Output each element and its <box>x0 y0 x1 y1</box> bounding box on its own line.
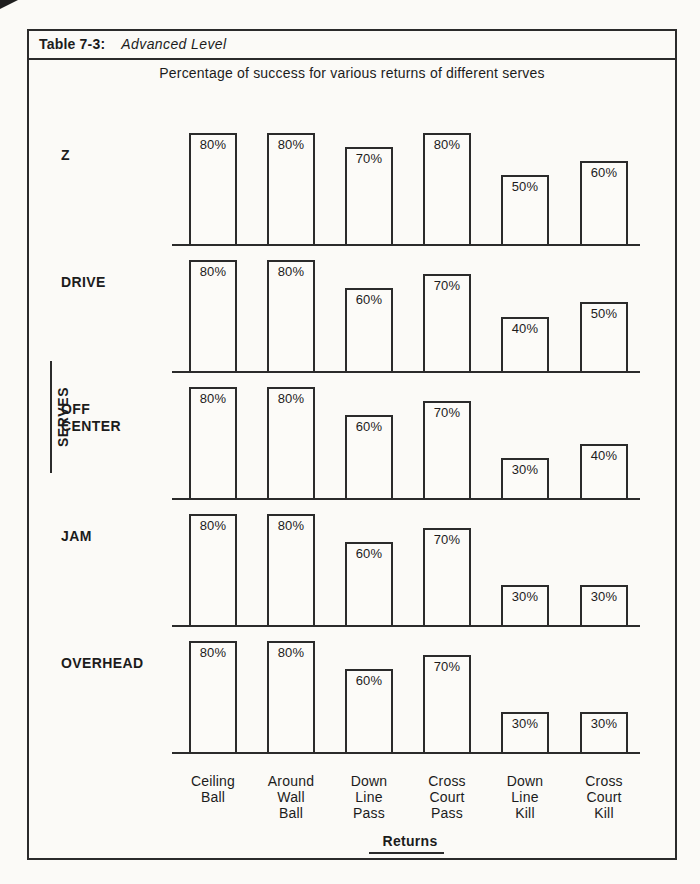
bar-off-center-cross-court-kill: 40% <box>580 444 628 500</box>
bar-overhead-cross-court-kill: 30% <box>580 712 628 754</box>
bar-value-label: 50% <box>503 177 547 194</box>
row-baseline-overhead <box>172 752 640 754</box>
bar-value-label: 60% <box>347 290 391 307</box>
bar-drive-cross-court-kill: 50% <box>580 302 628 373</box>
bar-value-label: 70% <box>425 530 469 547</box>
serve-label-jam: JAM <box>61 528 92 545</box>
bar-value-label: 30% <box>503 460 547 477</box>
bar-value-label: 60% <box>582 163 626 180</box>
bar-value-label: 60% <box>347 417 391 434</box>
bar-z-around-wall-ball: 80% <box>267 133 315 246</box>
bar-overhead-down-line-pass: 60% <box>345 669 393 754</box>
bar-z-ceiling-ball: 80% <box>189 133 237 246</box>
serve-label-z: Z <box>61 147 70 164</box>
bar-value-label: 40% <box>582 446 626 463</box>
x-axis-labels: CeilingBallAroundWallBallDownLinePassCro… <box>29 773 675 825</box>
bar-z-down-line-kill: 50% <box>501 175 549 246</box>
table-frame: Table 7-3:Advanced Level Percentage of s… <box>27 29 677 860</box>
bar-drive-ceiling-ball: 80% <box>189 260 237 373</box>
bar-value-label: 30% <box>503 714 547 731</box>
bar-value-label: 80% <box>191 516 235 533</box>
serve-label-off-center: OFFCENTER <box>61 401 121 435</box>
serve-row-jam: JAM80%80%60%70%30%30% <box>29 500 675 627</box>
serve-row-drive: DRIVE80%80%60%70%40%50% <box>29 246 675 373</box>
bar-value-label: 70% <box>347 149 391 166</box>
bar-value-label: 80% <box>269 643 313 660</box>
category-label-down-line-pass: DownLinePass <box>329 773 409 821</box>
bar-value-label: 80% <box>191 135 235 152</box>
bar-off-center-down-line-kill: 30% <box>501 458 549 500</box>
category-label-around-wall-ball: AroundWallBall <box>251 773 331 821</box>
bar-jam-down-line-pass: 60% <box>345 542 393 627</box>
bar-value-label: 40% <box>503 319 547 336</box>
bar-drive-cross-court-pass: 70% <box>423 274 471 373</box>
bar-jam-ceiling-ball: 80% <box>189 514 237 627</box>
bar-overhead-ceiling-ball: 80% <box>189 641 237 754</box>
category-label-cross-court-pass: CrossCourtPass <box>407 773 487 821</box>
bar-drive-down-line-pass: 60% <box>345 288 393 373</box>
category-label-ceiling-ball: CeilingBall <box>173 773 253 805</box>
bar-value-label: 80% <box>191 262 235 279</box>
bar-value-label: 70% <box>425 276 469 293</box>
serve-label-overhead: OVERHEAD <box>61 655 144 672</box>
serve-label-drive: DRIVE <box>61 274 106 291</box>
bar-z-cross-court-pass: 80% <box>423 133 471 246</box>
bar-value-label: 80% <box>191 643 235 660</box>
bar-off-center-around-wall-ball: 80% <box>267 387 315 500</box>
bar-overhead-down-line-kill: 30% <box>501 712 549 754</box>
bar-value-label: 80% <box>269 135 313 152</box>
bar-value-label: 70% <box>425 403 469 420</box>
bar-value-label: 80% <box>269 516 313 533</box>
serve-row-z: Z80%80%70%80%50%60% <box>29 119 675 246</box>
bar-drive-around-wall-ball: 80% <box>267 260 315 373</box>
bar-value-label: 60% <box>347 671 391 688</box>
bar-value-label: 80% <box>269 389 313 406</box>
bar-value-label: 80% <box>191 389 235 406</box>
x-axis-title: Returns <box>369 833 444 854</box>
bar-value-label: 30% <box>582 714 626 731</box>
bar-value-label: 80% <box>269 262 313 279</box>
bar-jam-cross-court-kill: 30% <box>580 585 628 627</box>
bar-z-cross-court-kill: 60% <box>580 161 628 246</box>
bar-off-center-down-line-pass: 60% <box>345 415 393 500</box>
bar-value-label: 60% <box>347 544 391 561</box>
category-label-down-line-kill: DownLineKill <box>485 773 565 821</box>
bar-value-label: 70% <box>425 657 469 674</box>
bar-z-down-line-pass: 70% <box>345 147 393 246</box>
bar-jam-cross-court-pass: 70% <box>423 528 471 627</box>
serve-row-off-center: OFFCENTER80%80%60%70%30%40% <box>29 373 675 500</box>
bar-overhead-cross-court-pass: 70% <box>423 655 471 754</box>
bar-jam-around-wall-ball: 80% <box>267 514 315 627</box>
bar-jam-down-line-kill: 30% <box>501 585 549 627</box>
bar-value-label: 30% <box>582 587 626 604</box>
bar-value-label: 80% <box>425 135 469 152</box>
x-axis-title-wrap: Returns <box>172 832 640 854</box>
scan-corner-artifact <box>0 0 18 9</box>
bar-overhead-around-wall-ball: 80% <box>267 641 315 754</box>
bar-off-center-cross-court-pass: 70% <box>423 401 471 500</box>
bar-off-center-ceiling-ball: 80% <box>189 387 237 500</box>
bar-drive-down-line-kill: 40% <box>501 317 549 373</box>
bar-value-label: 50% <box>582 304 626 321</box>
chart-rows: Z80%80%70%80%50%60%DRIVE80%80%60%70%40%5… <box>29 31 675 858</box>
category-label-cross-court-kill: CrossCourtKill <box>564 773 644 821</box>
bar-value-label: 30% <box>503 587 547 604</box>
serve-row-overhead: OVERHEAD80%80%60%70%30%30% <box>29 627 675 754</box>
